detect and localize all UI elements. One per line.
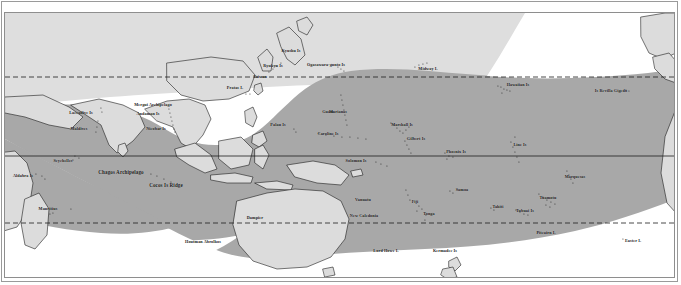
map-label-kyushu-is: Kyushu Is: [281, 49, 300, 53]
map-label-seychelles: Seychelles: [53, 159, 72, 163]
map-label-lord-howe-i: Lord Howe I.: [373, 249, 398, 253]
map-label-line-is: Line Is: [513, 143, 526, 147]
map-label-new-caledonia: New Caledonia: [350, 214, 378, 218]
map-label-marquesas: Marquesas: [565, 175, 586, 179]
map-label-midway-i: Midway I.: [418, 67, 437, 71]
map-label-cocos-is-ridge: Cocos Is Ridge: [149, 183, 183, 188]
map-label-solomon-is: Solomon Is: [346, 159, 367, 163]
map-label-guam: Guam: [322, 110, 334, 114]
map-figure: Aldabra IsSeychellesChagos ArchipelagoCo…: [0, 0, 681, 285]
map-label-tuamotu: Tuamotu: [540, 196, 557, 200]
map-label-tonga: Tonga: [423, 212, 435, 216]
map-label-tubuai-is: Tubuai Is: [516, 209, 534, 213]
map-label-fiji: Fiji: [412, 200, 419, 204]
map-label-chagos-archipelago: Chagos Archipelago: [98, 170, 143, 175]
map-label-mauritius: Mauritius: [39, 207, 58, 211]
map-label-taiwan: Taiwan: [253, 75, 267, 79]
map-label-easter-i: Easter I.: [625, 239, 641, 243]
map-plate: Aldabra IsSeychellesChagos ArchipelagoCo…: [4, 12, 675, 278]
map-label-is-revilla-gigedo: Is Revilla Gigedo: [595, 89, 627, 93]
map-label-dampier: Dampier: [247, 216, 264, 220]
map-label-maldives: Maldives: [70, 127, 87, 131]
map-label-pratas-i: Pratas I.: [227, 86, 243, 90]
map-label-phoenix-is: Phoenix Is: [446, 150, 466, 154]
map-label-layer: Aldabra IsSeychellesChagos ArchipelagoCo…: [5, 13, 675, 278]
map-label-samoa: Samoa: [456, 188, 469, 192]
map-label-hawaiian-is: Hawaiian Is: [507, 83, 530, 87]
map-label-marshall-is: Marshall Is: [391, 123, 413, 127]
map-label-mergui-archipelago: Mergui Archipelago: [134, 103, 172, 107]
map-label-marianas: Marianas: [329, 110, 347, 114]
map-label-ogasawara-gunto-is: Ogasawara-gunto Is: [307, 63, 345, 67]
map-label-aldabra-is: Aldabra Is: [13, 174, 33, 178]
map-label-nicobar-is: Nicobar Is: [146, 127, 166, 131]
map-label-laccadive-is: Laccadive Is: [69, 111, 93, 115]
map-label-andaman-is: Andaman Is: [137, 112, 160, 116]
map-label-gilbert-is: Gilbert Is: [407, 137, 425, 141]
map-label-ryukyu-is: Ryukyu Is: [263, 64, 282, 68]
map-label-tahiti: Tahiti: [492, 205, 503, 209]
map-label-pitcairn-i: Pitcairn I.: [536, 231, 555, 235]
map-label-kermadec-is: Kermadec Is: [433, 249, 457, 253]
map-label-palau-is: Palau Is: [270, 123, 285, 127]
map-label-houtman-abrolhos: Houtman Abrolhos: [185, 240, 221, 244]
map-label-caroline-is: Caroline Is: [318, 132, 339, 136]
map-label-vanuatu: Vanuatu: [355, 198, 371, 202]
